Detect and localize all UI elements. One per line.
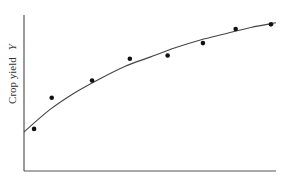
data-point	[269, 22, 274, 27]
y-axis-label: Crop yieldY	[6, 44, 18, 104]
data-point	[165, 53, 170, 58]
chart-canvas	[0, 0, 282, 182]
data-points	[32, 22, 273, 131]
fitted-curve	[24, 23, 276, 132]
y-axis-label-text: Crop yield	[6, 57, 18, 104]
data-point	[32, 127, 37, 132]
data-point	[233, 27, 238, 32]
y-axis-variable: Y	[6, 44, 18, 50]
data-point	[128, 56, 133, 61]
data-point	[49, 95, 54, 100]
data-point	[90, 78, 95, 83]
data-point	[201, 41, 206, 46]
